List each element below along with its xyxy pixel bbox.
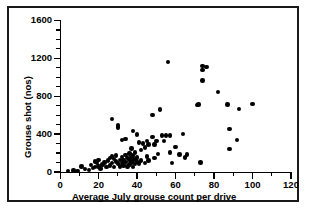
data-point xyxy=(170,161,174,165)
y-major-tick xyxy=(54,58,60,60)
data-point xyxy=(200,78,204,82)
data-point xyxy=(216,90,220,94)
data-point xyxy=(204,65,208,69)
data-point xyxy=(185,152,189,156)
x-major-tick xyxy=(60,173,62,179)
data-point xyxy=(225,102,229,106)
x-minor-tick xyxy=(117,173,118,176)
data-point xyxy=(168,133,172,137)
data-point xyxy=(146,142,150,146)
x-tick-label: 60 xyxy=(160,180,192,190)
data-point xyxy=(146,158,150,162)
x-major-tick xyxy=(252,173,254,179)
data-point xyxy=(114,153,118,157)
y-minor-tick xyxy=(56,115,59,116)
data-point xyxy=(152,142,156,146)
data-point xyxy=(237,107,241,111)
data-point xyxy=(158,107,162,111)
data-point xyxy=(75,169,79,173)
x-tick-label: 40 xyxy=(121,180,153,190)
data-point xyxy=(198,160,202,164)
data-point xyxy=(96,158,100,162)
y-tick-label: 1200 xyxy=(10,53,52,63)
y-minor-tick xyxy=(56,86,59,87)
x-minor-tick xyxy=(194,173,195,176)
y-minor-tick xyxy=(56,105,59,106)
data-point xyxy=(152,156,156,160)
x-minor-tick xyxy=(156,173,157,176)
data-point xyxy=(227,127,231,131)
x-major-tick xyxy=(175,173,177,179)
x-tick-label: 0 xyxy=(44,180,76,190)
y-major-tick xyxy=(54,20,60,22)
data-point xyxy=(166,60,170,64)
y-minor-tick xyxy=(56,152,59,153)
x-tick-label: 120 xyxy=(275,180,307,190)
x-minor-tick xyxy=(79,173,80,176)
data-point xyxy=(177,152,181,156)
x-tick-label: 80 xyxy=(198,180,230,190)
scatter-plot: 040080012001600 020406080100120 Grouse s… xyxy=(0,0,310,216)
data-point xyxy=(181,132,185,136)
data-point xyxy=(135,132,139,136)
y-minor-tick xyxy=(56,124,59,125)
data-point xyxy=(110,117,114,121)
x-major-tick xyxy=(136,173,138,179)
data-point xyxy=(116,123,120,127)
x-major-tick xyxy=(290,173,292,179)
data-point xyxy=(98,166,102,170)
x-tick-label: 100 xyxy=(237,180,269,190)
y-minor-tick xyxy=(56,29,59,30)
data-point xyxy=(154,139,158,143)
y-major-tick xyxy=(54,96,60,98)
x-major-tick xyxy=(98,173,100,179)
y-minor-tick xyxy=(56,67,59,68)
data-point xyxy=(250,102,254,106)
x-axis-title: Average July grouse count per drive xyxy=(72,191,236,202)
data-point xyxy=(235,138,239,142)
x-major-tick xyxy=(213,173,215,179)
x-tick-label: 20 xyxy=(83,180,115,190)
data-point xyxy=(133,150,137,154)
y-tick-label: 1600 xyxy=(10,15,52,25)
data-point xyxy=(168,150,172,154)
data-point xyxy=(156,152,160,156)
x-minor-tick xyxy=(233,173,234,176)
y-tick-label: 0 xyxy=(10,167,52,177)
data-point xyxy=(123,137,127,141)
y-minor-tick xyxy=(56,48,59,49)
data-point xyxy=(162,139,166,143)
data-point xyxy=(227,147,231,151)
y-minor-tick xyxy=(56,77,59,78)
figure-container: 040080012001600 020406080100120 Grouse s… xyxy=(0,0,310,216)
data-point xyxy=(173,145,177,149)
data-point xyxy=(150,113,154,117)
y-major-tick xyxy=(54,133,60,135)
y-minor-tick xyxy=(56,143,59,144)
y-minor-tick xyxy=(56,162,59,163)
y-minor-tick xyxy=(56,39,59,40)
data-point xyxy=(196,102,200,106)
x-minor-tick xyxy=(271,173,272,176)
y-axis-title: Grouse shot (nos) xyxy=(22,76,33,158)
